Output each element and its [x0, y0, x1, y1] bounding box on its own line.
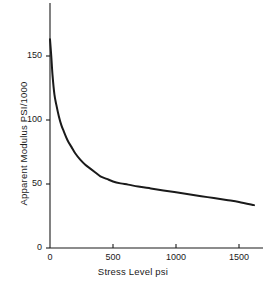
series-line	[50, 39, 254, 205]
x-tick-label: 500	[93, 253, 133, 262]
y-axis-title: Apparent Modulus PSI/1000	[18, 59, 29, 229]
y-tick-label: 0	[10, 243, 42, 252]
data-series-group	[50, 39, 254, 205]
x-tick-label: 1500	[219, 253, 259, 262]
x-axis-title: Stress Level psi	[0, 266, 266, 277]
x-tick-label: 1000	[156, 253, 196, 262]
x-tick-label: 0	[30, 253, 70, 262]
chart-figure: 050100150050010001500 Stress Level psi A…	[0, 0, 266, 286]
x-axis-ticks	[113, 244, 239, 248]
y-axis-ticks	[46, 56, 50, 248]
